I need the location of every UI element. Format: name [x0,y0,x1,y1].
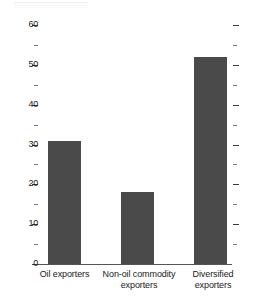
x-axis-baseline [38,264,232,265]
bar [194,57,227,264]
x-axis-category-label-line: exporters [93,280,185,291]
bar [48,141,81,264]
x-axis-category-label: Non-oil commodityexporters [93,269,185,291]
bar-chart: 0102030405060 Oil exportersNon-oil commo… [0,0,262,306]
x-axis-category-label-line: Non-oil commodity [93,269,185,280]
x-axis-category-label-line: Diversified [175,269,251,280]
bar [121,192,154,264]
x-axis-category-label: Diversifiedexporters [175,269,251,291]
x-axis-category-label-line: exporters [175,280,251,291]
bars-layer [0,0,262,265]
x-axis-labels: Oil exportersNon-oil commodityexportersD… [0,267,262,306]
